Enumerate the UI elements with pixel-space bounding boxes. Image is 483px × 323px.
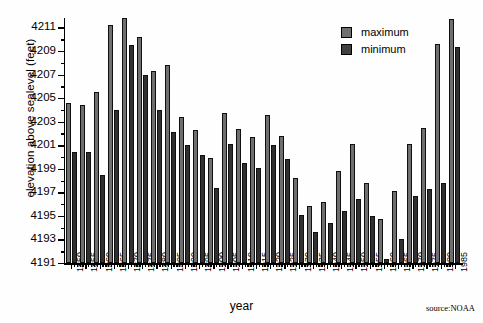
bar-maximum — [122, 18, 127, 263]
x-tick-minor — [154, 263, 155, 267]
y-tick — [58, 145, 64, 146]
y-tick-minor — [61, 110, 65, 111]
x-tick — [270, 263, 271, 269]
bar-minimum — [86, 152, 91, 263]
x-tick-minor — [444, 263, 445, 267]
x-tick — [256, 263, 257, 269]
bar-maximum — [165, 65, 170, 263]
x-tick-minor — [97, 263, 98, 267]
x-tick — [284, 263, 285, 269]
chart-figure: elevation above sealevel (feet) 41914193… — [0, 0, 483, 323]
bar-minimum — [455, 47, 460, 263]
y-tick — [58, 27, 64, 28]
legend-swatch-minimum-icon — [341, 44, 352, 55]
bar-maximum — [265, 115, 270, 263]
y-tick-minor — [61, 228, 65, 229]
bar-pair — [435, 18, 446, 263]
bar-minimum — [171, 132, 176, 263]
x-tick-minor — [353, 263, 354, 267]
x-tick — [199, 263, 200, 269]
bar-minimum — [328, 223, 333, 263]
bar-pair — [293, 18, 304, 263]
x-tick-minor — [176, 263, 177, 267]
x-tick — [227, 263, 228, 269]
bar-maximum — [407, 144, 412, 263]
x-tick-minor — [361, 263, 362, 267]
bar-maximum — [336, 171, 341, 263]
x-tick-minor — [415, 263, 416, 267]
x-tick-minor — [424, 263, 425, 267]
x-tick-minor — [125, 263, 126, 267]
x-tick-minor — [378, 263, 379, 267]
bar-maximum — [364, 183, 369, 263]
x-tick — [455, 263, 456, 269]
bar-minimum — [228, 144, 233, 263]
x-tick-minor — [421, 263, 422, 267]
y-tick-label: 4191 — [30, 257, 56, 269]
x-tick-minor — [344, 263, 345, 267]
x-tick-minor — [173, 263, 174, 267]
bar-pair — [193, 18, 204, 263]
x-tick-minor — [134, 263, 135, 267]
source-credit: source:NOAA — [426, 303, 475, 313]
x-tick — [341, 263, 342, 269]
x-tick-minor — [208, 263, 209, 267]
x-tick-minor — [139, 263, 140, 267]
x-tick-minor — [390, 263, 391, 267]
x-tick-minor — [404, 263, 405, 267]
bar-maximum — [321, 202, 326, 263]
x-tick-minor — [407, 263, 408, 267]
x-tick-minor — [233, 263, 234, 267]
x-tick-minor — [74, 263, 75, 267]
x-tick-minor — [432, 263, 433, 267]
bar-minimum — [313, 232, 318, 263]
y-tick-minor — [61, 133, 65, 134]
bar-pair — [421, 18, 432, 263]
x-tick-minor — [117, 263, 118, 267]
x-tick-minor — [262, 263, 263, 267]
x-tick-minor — [145, 263, 146, 267]
x-tick-minor — [281, 263, 282, 267]
bar-pair — [137, 18, 148, 263]
bar-pair — [179, 18, 190, 263]
x-tick-minor — [259, 263, 260, 267]
bar-maximum — [208, 158, 213, 263]
x-tick-minor — [438, 263, 439, 267]
x-tick-minor — [435, 263, 436, 267]
x-tick-minor — [321, 263, 322, 267]
x-tick-minor — [375, 263, 376, 267]
bar-maximum — [236, 129, 241, 263]
legend-label-maximum: maximum — [361, 26, 409, 38]
bar-maximum — [378, 219, 383, 263]
x-tick — [412, 263, 413, 269]
x-tick — [114, 263, 115, 269]
x-tick-minor — [372, 263, 373, 267]
x-tick-minor — [409, 263, 410, 267]
legend-item-minimum: minimum — [341, 42, 409, 56]
bar-pair — [279, 18, 290, 263]
x-tick-minor — [330, 263, 331, 267]
bar-maximum — [193, 130, 198, 263]
bar-maximum — [293, 178, 298, 263]
x-tick-minor — [290, 263, 291, 267]
legend-item-maximum: maximum — [341, 25, 409, 39]
x-tick-minor — [387, 263, 388, 267]
x-tick-minor — [338, 263, 339, 267]
x-tick-minor — [307, 263, 308, 267]
bar-maximum — [94, 92, 99, 263]
bar-pair — [108, 18, 119, 263]
y-tick-minor — [61, 204, 65, 205]
x-tick-minor — [136, 263, 137, 267]
x-tick-minor — [381, 263, 382, 267]
x-tick-minor — [122, 263, 123, 267]
bar-pair — [250, 18, 261, 263]
bar-pair — [122, 18, 133, 263]
x-tick — [327, 263, 328, 269]
x-tick-minor — [392, 263, 393, 267]
x-tick-minor — [168, 263, 169, 267]
x-tick-minor — [202, 263, 203, 267]
bar-maximum — [421, 128, 426, 263]
x-tick-minor — [253, 263, 254, 267]
x-tick-minor — [276, 263, 277, 267]
y-tick — [58, 122, 64, 123]
